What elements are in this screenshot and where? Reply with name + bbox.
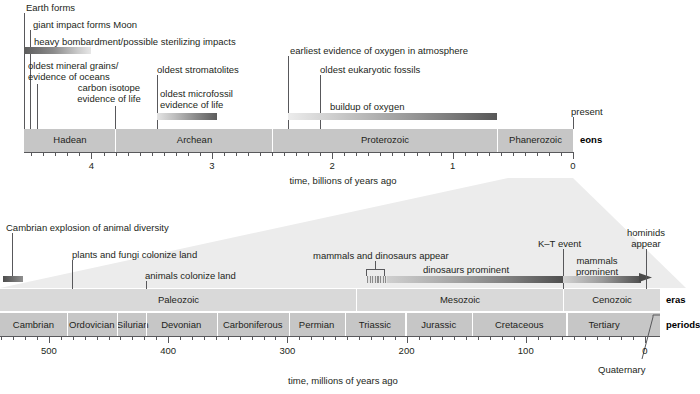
row-label-eras: eras [666,294,686,305]
period-separator [67,313,68,336]
period-label-tertiary: Tertiary [566,319,642,330]
bottom-axis-tick [168,336,169,343]
event-label-plants-fungi: plants and fungi colonize land [72,249,197,260]
bottom-axis-tick [192,336,193,340]
bottom-axis-tick [442,336,443,340]
bottom-axis-tick [85,336,86,340]
period-separator [472,313,473,336]
bottom-axis-tick [562,336,563,340]
event-leader-plants-fungi [72,260,73,289]
event-leader-cambrian-explosion [12,233,13,277]
bottom-axis-tick-label: 500 [29,346,69,356]
bottom-axis-tick [574,336,575,340]
bottom-axis-tick [120,336,121,340]
bottom-axis-tick [252,336,253,340]
row-label-periods: periods [666,319,700,330]
event-marker-cambrian-explosion [3,276,23,282]
period-label-triassic: Triassic [345,319,406,330]
era-label-paleozoic: Paleozoic [0,294,357,305]
bottom-axis-tick-label: 400 [148,346,188,356]
bottom-axis-tick [144,336,145,340]
bottom-axis-tick [585,336,586,340]
bar-dinosaurs-prominent [387,276,563,283]
event-leader-animals-colonize [146,281,147,289]
period-separator [146,313,147,336]
bottom-axis-tick [264,336,265,340]
bottom-axis-tick [216,336,217,340]
bottom-axis-title: time, millions of years ago [0,375,686,386]
bottom-axis-tick [132,336,133,340]
period-label-quaternary: Quaternary [598,364,646,375]
bottom-axis-tick [1,336,2,340]
bottom-axis-tick [156,336,157,340]
bottom-axis-tick [13,336,14,340]
bottom-axis-tick [323,336,324,340]
bottom-axis-tick [526,336,527,343]
event-leader-kt-event [563,249,564,290]
bottom-axis-tick [49,336,50,343]
event-bracket-right-mammals-dinosaurs [384,269,385,276]
bottom-axis-tick [550,336,551,340]
period-label-silurian: Silurian [117,319,146,330]
event-label-dinosaurs-prominent: dinosaurs prominent [423,264,509,275]
period-separator [289,313,290,336]
bottom-axis-tick [228,336,229,340]
event-leader-mammals-dinosaurs-appear [375,261,376,269]
bottom-axis-tick [73,336,74,340]
bottom-axis-tick [633,336,634,340]
bottom-axis-tick [287,336,288,343]
bottom-axis-tick [514,336,515,340]
event-leader-hominids-appear [646,249,647,289]
bottom-axis-tick [109,336,110,340]
event-label-hominids-appear: hominids appear [615,227,677,249]
bottom-axis-tick [430,336,431,340]
bottom-axis-tick-label: 300 [267,346,307,356]
bottom-axis-tick [311,336,312,340]
period-separator [117,313,118,336]
bottom-axis-tick [502,336,503,340]
event-bracket-top-mammals-dinosaurs [366,269,385,270]
period-separator [345,313,346,336]
bottom-axis-tick [621,336,622,340]
period-label-jurassic: Jurassic [405,319,472,330]
event-bracket-left-mammals-dinosaurs [366,269,367,276]
bottom-axis-tick [490,336,491,340]
bottom-axis-tick [478,336,479,340]
bottom-axis-tick-label: 100 [506,346,546,356]
bottom-axis-tick [204,336,205,340]
bottom-axis-tick [454,336,455,340]
event-label-mammals-dinosaurs-appear: mammals and dinosaurs appear [313,250,449,261]
bottom-axis-tick [359,336,360,340]
bottom-axis-tick [645,336,646,343]
bottom-axis-tick [275,336,276,340]
bottom-axis-tick [347,336,348,340]
bottom-axis-tick [240,336,241,340]
period-separator [217,313,218,336]
era-label-cenozoic: Cenozoic [564,294,660,305]
bottom-axis-tick [597,336,598,340]
bottom-axis-tick [538,336,539,340]
bottom-axis-tick [419,336,420,340]
bottom-axis-tick [180,336,181,340]
bottom-axis-tick [61,336,62,340]
bar-mammals-prominent [563,276,641,283]
bottom-axis-tick [383,336,384,340]
period-separator [405,313,406,336]
bottom-axis-tick [371,336,372,340]
bottom-axis-tick [609,336,610,340]
bottom-axis-tick [37,336,38,340]
bottom-axis-tick [466,336,467,340]
event-label-cambrian-explosion: Cambrian explosion of animal diversity [6,222,169,233]
event-label-animals-colonize: animals colonize land [145,270,236,281]
period-label-devonian: Devonian [145,319,217,330]
bottom-axis-tick [407,336,408,343]
event-label-mammals-prominent: mammals prominent [565,255,629,277]
bar-dinosaurs-hatch [367,276,387,283]
period-label-cretaceous: Cretaceous [472,319,566,330]
period-label-cambrian: Cambrian [0,319,67,330]
era-label-mesozoic: Mesozoic [357,294,563,305]
bottom-axis-tick-label: 0 [625,346,665,356]
period-label-permian: Permian [289,319,345,330]
